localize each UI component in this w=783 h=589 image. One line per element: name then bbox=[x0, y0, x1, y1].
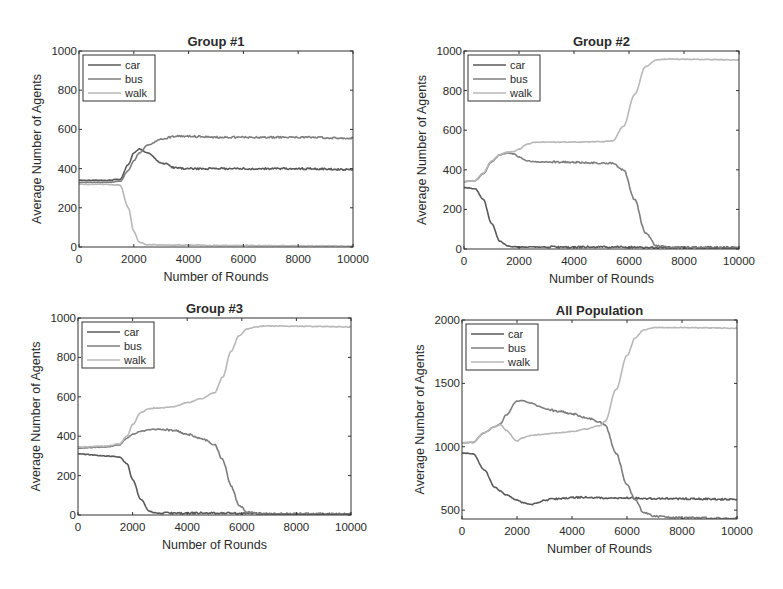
x-tick-label: 8000 bbox=[285, 253, 311, 265]
x-tick-label: 2000 bbox=[120, 521, 146, 533]
y-tick-label: 400 bbox=[58, 163, 77, 175]
x-tick-label: 6000 bbox=[614, 525, 640, 537]
x-tick-label: 2000 bbox=[504, 525, 530, 537]
y-tick-label: 200 bbox=[58, 202, 77, 214]
y-axis-label: Average Number of Agents bbox=[415, 75, 429, 225]
series-line-walk bbox=[79, 184, 353, 247]
subplot-all-population: All Population Average Number of Agents … bbox=[413, 303, 753, 556]
y-tick-label: 0 bbox=[456, 243, 462, 255]
legend: car bus walk bbox=[82, 322, 154, 368]
legend-label-bus: bus bbox=[510, 73, 528, 85]
series-line-bus bbox=[78, 429, 351, 515]
legend-label-car: car bbox=[508, 328, 524, 340]
series-line-car bbox=[78, 454, 351, 515]
series-line-car bbox=[79, 149, 353, 181]
x-tick-label: 2000 bbox=[506, 255, 532, 267]
x-tick-label: 0 bbox=[75, 521, 81, 533]
x-tick-label: 0 bbox=[459, 525, 465, 537]
legend-label-car: car bbox=[510, 59, 526, 71]
y-tick-label: 800 bbox=[57, 351, 76, 363]
chart-title: Group #3 bbox=[186, 301, 243, 316]
y-tick-label: 0 bbox=[71, 241, 77, 253]
legend-label-walk: walk bbox=[509, 87, 533, 99]
x-tick-label: 0 bbox=[461, 255, 467, 267]
chart-title: Group #2 bbox=[573, 34, 630, 49]
y-tick-label: 1000 bbox=[436, 45, 462, 57]
y-tick-label: 1000 bbox=[434, 441, 460, 453]
y-tick-label: 1000 bbox=[50, 312, 76, 324]
x-tick-label: 0 bbox=[76, 253, 82, 265]
series-line-bus bbox=[79, 136, 353, 183]
y-tick-label: 400 bbox=[443, 164, 462, 176]
legend-label-bus: bus bbox=[125, 73, 143, 85]
legend-label-walk: walk bbox=[507, 356, 531, 368]
x-tick-label: 6000 bbox=[231, 253, 257, 265]
legend-label-bus: bus bbox=[124, 340, 142, 352]
legend: car bus walk bbox=[83, 55, 155, 101]
y-tick-label: 200 bbox=[443, 203, 462, 215]
y-tick-label: 600 bbox=[57, 391, 76, 403]
series-line-bus bbox=[464, 153, 739, 249]
x-tick-label: 10000 bbox=[337, 253, 369, 265]
x-tick-label: 10000 bbox=[721, 525, 753, 537]
y-tick-label: 1000 bbox=[51, 45, 77, 57]
y-tick-label: 400 bbox=[57, 430, 76, 442]
legend: car bus walk bbox=[468, 55, 540, 101]
x-axis-label: Number of Rounds bbox=[164, 270, 269, 284]
legend-label-bus: bus bbox=[508, 342, 526, 354]
y-tick-label: 0 bbox=[70, 509, 76, 521]
y-tick-label: 200 bbox=[57, 470, 76, 482]
x-tick-label: 4000 bbox=[176, 253, 202, 265]
x-tick-label: 6000 bbox=[229, 521, 255, 533]
x-axis-label: Number of Rounds bbox=[549, 272, 654, 286]
series-line-car bbox=[464, 187, 739, 248]
x-tick-label: 10000 bbox=[723, 255, 755, 267]
y-axis-label: Average Number of Agents bbox=[413, 345, 427, 495]
series-line-bus bbox=[462, 401, 737, 520]
y-axis-label: Average Number of Agents bbox=[29, 342, 43, 492]
x-tick-label: 2000 bbox=[121, 253, 147, 265]
y-tick-label: 800 bbox=[443, 85, 462, 97]
y-axis-label: Average Number of Agents bbox=[30, 74, 44, 224]
legend-label-walk: walk bbox=[124, 87, 148, 99]
y-tick-label: 600 bbox=[443, 124, 462, 136]
legend: car bus walk bbox=[466, 324, 538, 370]
legend-label-car: car bbox=[125, 59, 141, 71]
x-tick-label: 6000 bbox=[616, 255, 642, 267]
x-tick-label: 10000 bbox=[335, 521, 367, 533]
series-line-car bbox=[462, 453, 737, 505]
subplot-group-1: Group #1 Average Number of Agents Number… bbox=[30, 34, 369, 284]
x-tick-label: 4000 bbox=[559, 525, 585, 537]
legend-label-walk: walk bbox=[123, 354, 147, 366]
y-tick-label: 500 bbox=[441, 504, 460, 516]
chart-title: Group #1 bbox=[187, 34, 244, 49]
figure: Group #1 Average Number of Agents Number… bbox=[0, 0, 783, 589]
subplot-group-3: Group #3 Average Number of Agents Number… bbox=[29, 301, 367, 552]
x-tick-label: 4000 bbox=[174, 521, 200, 533]
series-lines bbox=[79, 136, 353, 247]
y-tick-label: 600 bbox=[58, 123, 77, 135]
x-axis-label: Number of Rounds bbox=[162, 538, 267, 552]
y-tick-label: 2000 bbox=[434, 314, 460, 326]
subplot-group-2: Group #2 Average Number of Agents Number… bbox=[415, 34, 755, 286]
x-axis-label: Number of Rounds bbox=[547, 542, 652, 556]
x-tick-label: 8000 bbox=[284, 521, 310, 533]
x-tick-label: 4000 bbox=[561, 255, 587, 267]
x-tick-label: 8000 bbox=[671, 255, 697, 267]
y-tick-label: 1500 bbox=[434, 377, 460, 389]
chart-title: All Population bbox=[556, 303, 643, 318]
y-tick-label: 800 bbox=[58, 84, 77, 96]
x-tick-label: 8000 bbox=[669, 525, 695, 537]
legend-label-car: car bbox=[124, 326, 140, 338]
